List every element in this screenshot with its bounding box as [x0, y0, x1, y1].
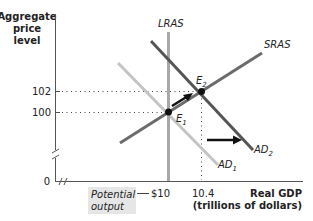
y-axis-label-line1: Aggregate — [0, 11, 57, 22]
y-axis-label-line2: price — [13, 23, 41, 34]
x-axis-label-line2: (trillions of dollars) — [193, 200, 302, 211]
e2-label: E2 — [196, 75, 207, 89]
sras-curve — [120, 53, 262, 143]
y-tick-102: 102 — [32, 86, 51, 97]
e2-point — [198, 88, 205, 95]
x-axis-label-line1: Real GDP — [250, 188, 302, 199]
ad1-label: AD1 — [217, 159, 237, 173]
lras-label: LRAS — [158, 18, 184, 29]
y-axis-label-line3: level — [14, 35, 41, 46]
e1-point — [165, 109, 172, 116]
ad2-curve — [151, 41, 253, 150]
y-axis-break-icon — [52, 149, 59, 159]
x-tick-10: $10 — [151, 188, 170, 199]
ad2-label: AD2 — [253, 144, 274, 158]
sras-label: SRAS — [264, 39, 291, 50]
x-tick-10-4: 10.4 — [192, 188, 214, 199]
potential-output-line2: output — [91, 201, 125, 212]
potential-output-line1: Potential — [91, 189, 135, 200]
y-tick-100: 100 — [32, 107, 51, 118]
as-ad-chart: Aggregate price level 102 100 0 LRAS SRA… — [0, 0, 313, 221]
y-tick-0: 0 — [44, 176, 50, 187]
